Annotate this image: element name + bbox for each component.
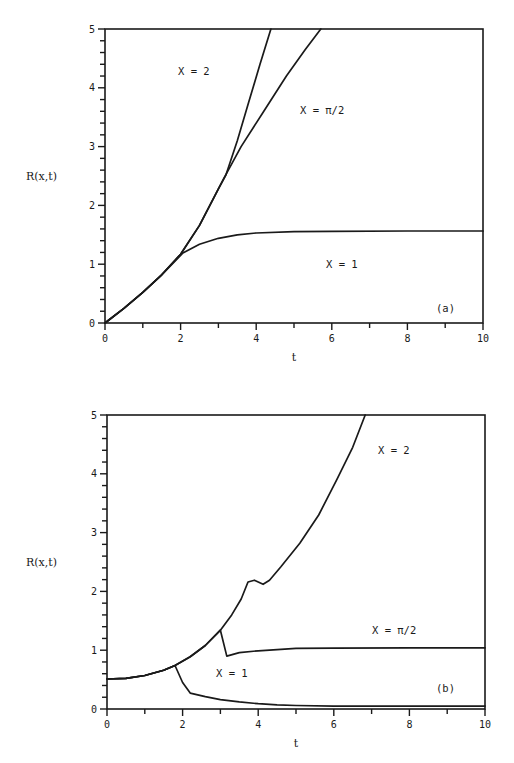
curve-annotation: X = 1: [326, 258, 358, 270]
curve-x-2: [105, 29, 321, 323]
x-tick-label: 10: [477, 333, 489, 344]
x-tick-label: 0: [102, 333, 108, 344]
y-tick-label: 0: [89, 318, 95, 329]
y-tick-label: 0: [91, 704, 97, 715]
curve-annotation: X = 2: [178, 65, 210, 77]
x-tick-label: 4: [253, 333, 259, 344]
y-tick-label: 4: [89, 82, 95, 93]
y-axis-label: R(x,t): [26, 556, 57, 569]
x-axis: 0246810: [102, 323, 489, 344]
curves: [105, 29, 483, 323]
y-tick-label: 2: [89, 200, 95, 211]
curve-x-2: [107, 630, 485, 679]
x-axis-label: t: [294, 737, 299, 750]
y-axis-label: R(x,t): [26, 170, 57, 183]
curve-annotation: X = π/2: [300, 104, 344, 116]
x-axis-label: t: [292, 351, 297, 364]
panel-label: (a): [436, 302, 455, 314]
x-tick-label: 0: [104, 719, 110, 730]
panel-b-chart: 0123450246810tR(x,t)X = 2X = π/2X = 1(b): [26, 410, 491, 751]
curve-annotation: X = π/2: [372, 624, 416, 636]
y-tick-label: 2: [91, 586, 97, 597]
plot-frame: [107, 415, 485, 709]
y-axis: 012345: [89, 24, 105, 329]
panel-a-chart: 0123450246810tR(x,t)X = 2X = π/2X = 1(a): [26, 24, 489, 365]
plot-frame: [105, 29, 483, 323]
curve-annotation: X = 1: [216, 667, 248, 679]
y-axis: 012345: [91, 410, 107, 715]
x-axis: 0246810: [104, 709, 491, 730]
curve-x-2: [107, 415, 365, 679]
curve-annotation: X = 2: [378, 444, 410, 456]
panel-label: (b): [436, 682, 455, 694]
y-tick-label: 3: [89, 141, 95, 152]
y-tick-label: 3: [91, 527, 97, 538]
y-tick-label: 5: [91, 410, 97, 421]
x-tick-label: 2: [178, 333, 184, 344]
y-tick-label: 1: [91, 645, 97, 656]
x-tick-label: 6: [331, 719, 337, 730]
y-tick-label: 1: [89, 259, 95, 270]
curve-x-1: [107, 666, 485, 707]
y-tick-label: 5: [89, 24, 95, 35]
figure: 0123450246810tR(x,t)X = 2X = π/2X = 1(a)…: [0, 0, 514, 763]
x-tick-label: 8: [404, 333, 410, 344]
curves: [107, 415, 485, 706]
y-tick-label: 4: [91, 468, 97, 479]
x-tick-label: 8: [406, 719, 412, 730]
x-tick-label: 10: [479, 719, 491, 730]
curve-x-1: [105, 231, 483, 323]
x-tick-label: 4: [255, 719, 261, 730]
x-tick-label: 6: [329, 333, 335, 344]
x-tick-label: 2: [180, 719, 186, 730]
